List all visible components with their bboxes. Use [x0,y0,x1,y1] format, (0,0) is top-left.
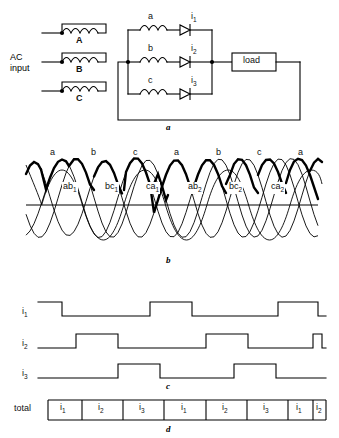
total-cell-0: i1 [60,403,66,415]
panel-c-pulses [0,280,339,380]
diode-current-label-2: i2 [191,44,197,56]
panel-b-waveforms [0,143,339,268]
pulse-trace-i2 [38,334,326,348]
crossover-label-4: bc2 [228,182,243,194]
ac-input-line2: input [10,63,30,73]
pulse-trace-i1 [38,302,326,316]
total-cell-4: i2 [222,403,228,415]
phase-label-0: a [50,148,55,157]
secondary-winding-label-c: c [148,76,153,85]
load-label: load [243,56,260,65]
total-label: total [14,404,31,413]
pulse-label-i3: i3 [22,369,28,381]
sine-wave-group [26,159,318,238]
total-cell-1: i2 [98,403,104,415]
secondary-coil-b [140,58,167,63]
total-cell-5: i3 [263,403,269,415]
ac-input-label: AC input [10,52,30,74]
diode-2-triangle [180,57,190,67]
envelope-arc-11 [310,159,322,171]
wave-a-thin [26,159,318,238]
crossover-label-0: ab1 [62,182,78,194]
panel-a-circuit [0,0,339,132]
panel-letter-b: b [166,255,171,265]
primary-coil-c [62,87,98,92]
primary-coil-a [62,29,98,34]
panel-d-total [0,394,339,426]
phase-label-1: b [91,148,96,157]
figure-canvas: AC input A B C a b c i1 i2 i3 load a [0,0,339,438]
phase-label-6: a [298,148,303,157]
pulse-trace-i3 [38,364,326,378]
total-cell-2: i3 [139,403,145,415]
total-cell-7: i2 [316,403,322,415]
primary-winding-label-a: A [76,36,83,45]
secondary-winding-label-b: b [148,44,153,53]
crossover-label-3: ab2 [187,182,203,194]
diode-current-label-3: i3 [191,76,197,88]
primary-coil-b [62,58,98,63]
total-cell-6: i1 [296,403,302,415]
crossover-label-2: ca1 [145,182,160,194]
phase-label-3: a [174,148,179,157]
phase-label-2: c [133,148,138,157]
pulse-label-i2: i2 [22,339,28,351]
ac-input-line1: AC [10,52,23,62]
panel-letter-d: d [166,424,171,434]
diode-1-triangle [180,25,190,35]
phase-label-4: b [216,148,221,157]
diode-3-triangle [180,89,190,99]
secondary-coil-c [140,90,167,95]
secondary-winding-label-a: a [148,12,153,21]
crossover-label-5: ca2 [270,182,285,194]
crossover-label-1: bc1 [104,182,119,194]
secondary-coil-a [140,26,167,31]
panel-letter-c: c [166,381,170,391]
pulse-label-i1: i1 [22,307,28,319]
primary-winding-label-b: B [76,65,83,74]
total-cell-3: i1 [181,403,187,415]
panel-letter-a: a [166,122,171,132]
primary-winding-label-c: C [76,94,83,103]
phase-label-5: c [257,148,262,157]
diode-current-label-1: i1 [191,12,197,24]
envelope-arc-0 [26,162,41,174]
